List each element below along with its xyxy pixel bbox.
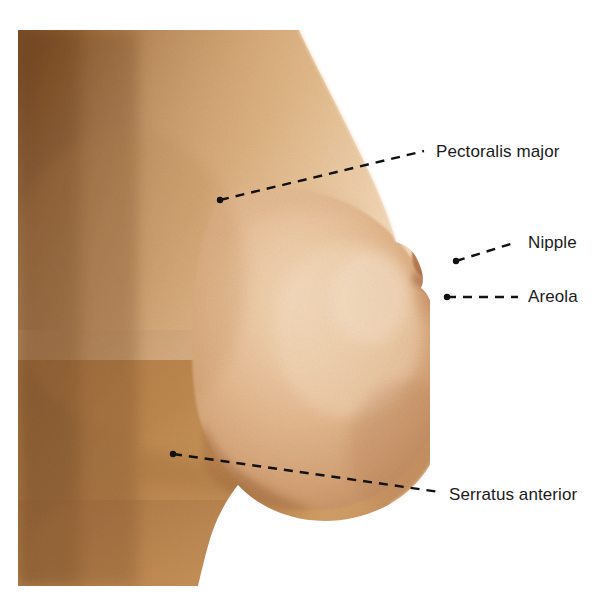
torso-skin (18, 30, 430, 586)
label-serratus-anterior: Serratus anterior (449, 485, 577, 505)
label-areola: Areola (528, 287, 578, 307)
leader-nipple (453, 242, 517, 264)
label-pectoralis-major: Pectoralis major (436, 142, 559, 162)
label-nipple: Nipple (528, 233, 577, 253)
nipple-shape (412, 233, 430, 288)
leader-areola (444, 294, 518, 300)
torso-illustration (18, 30, 430, 586)
breast-lateral-photograph (18, 30, 430, 586)
anatomy-figure: Pectoralis major Nipple Areola Serratus … (0, 0, 611, 607)
